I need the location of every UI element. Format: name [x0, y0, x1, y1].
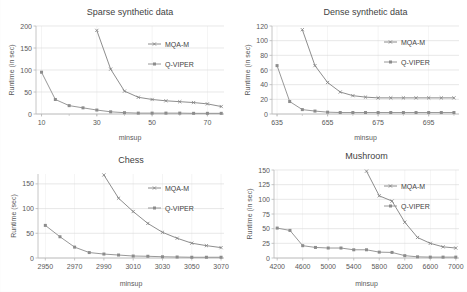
svg-text:25: 25	[262, 240, 270, 247]
svg-text:50: 50	[148, 119, 156, 126]
svg-text:655: 655	[322, 119, 334, 126]
svg-text:Runtime (in sec): Runtime (in sec)	[8, 45, 16, 96]
svg-text:125: 125	[258, 181, 270, 188]
svg-text:50: 50	[26, 230, 34, 237]
svg-text:Mushroom: Mushroom	[345, 151, 388, 161]
svg-text:120: 120	[256, 23, 268, 30]
svg-text:5000: 5000	[320, 263, 336, 270]
chart-svg-3: 0255075100125150420046005000540058006200…	[234, 146, 467, 292]
svg-text:Q-VIPER: Q-VIPER	[401, 59, 430, 67]
chart-svg-2: 0501001502950297029903010303030503070Che…	[0, 146, 234, 292]
svg-text:0: 0	[30, 255, 34, 262]
svg-text:200: 200	[20, 23, 32, 30]
svg-text:150: 150	[22, 180, 34, 187]
svg-text:2950: 2950	[38, 263, 54, 270]
svg-text:Q-VIPER: Q-VIPER	[401, 203, 430, 211]
svg-text:100: 100	[22, 205, 34, 212]
svg-text:Q-VIPER: Q-VIPER	[165, 205, 194, 213]
svg-text:0: 0	[28, 111, 32, 118]
chart-panel-mushroom: 0255075100125150420046005000540058006200…	[234, 146, 467, 292]
svg-text:4200: 4200	[269, 263, 285, 270]
svg-text:minsup: minsup	[354, 134, 377, 142]
svg-text:3030: 3030	[155, 263, 171, 270]
svg-text:Dense synthetic data: Dense synthetic data	[323, 7, 407, 17]
svg-text:MQA-M: MQA-M	[165, 185, 189, 193]
svg-text:Q-VIPER: Q-VIPER	[165, 61, 194, 69]
chart-panel-chess: 0501001502950297029903010303030503070Che…	[0, 146, 234, 292]
svg-text:minsup: minsup	[355, 280, 378, 288]
svg-text:60: 60	[260, 67, 268, 74]
chart-svg-0: 05010015020010305070Sparse synthetic dat…	[0, 0, 234, 146]
svg-text:7000: 7000	[448, 263, 464, 270]
svg-text:30: 30	[93, 119, 101, 126]
svg-text:50: 50	[24, 89, 32, 96]
svg-text:50: 50	[262, 225, 270, 232]
svg-text:635: 635	[271, 119, 283, 126]
svg-text:70: 70	[204, 119, 212, 126]
svg-text:100: 100	[256, 37, 268, 44]
svg-text:Runtime (in sec): Runtime (in sec)	[246, 189, 254, 240]
svg-text:100: 100	[258, 196, 270, 203]
svg-text:Chess: Chess	[118, 155, 144, 165]
svg-text:0: 0	[266, 255, 270, 262]
svg-text:0: 0	[264, 111, 268, 118]
svg-text:5800: 5800	[371, 263, 387, 270]
svg-text:20: 20	[260, 96, 268, 103]
svg-text:MQA-M: MQA-M	[401, 39, 425, 47]
svg-text:3050: 3050	[184, 263, 200, 270]
svg-text:40: 40	[260, 81, 268, 88]
svg-text:minsup: minsup	[120, 280, 143, 288]
svg-text:695: 695	[423, 119, 435, 126]
svg-text:4600: 4600	[295, 263, 311, 270]
svg-text:2990: 2990	[96, 263, 112, 270]
svg-text:Runtime (sec): Runtime (sec)	[10, 194, 18, 238]
svg-text:5400: 5400	[346, 263, 362, 270]
svg-text:minsup: minsup	[119, 134, 142, 142]
svg-text:2970: 2970	[67, 263, 83, 270]
svg-text:6200: 6200	[397, 263, 413, 270]
svg-text:6600: 6600	[423, 263, 439, 270]
svg-text:100: 100	[20, 67, 32, 74]
svg-text:10: 10	[38, 119, 46, 126]
svg-text:MQA-M: MQA-M	[165, 41, 189, 49]
chart-panel-dense-synthetic-data: 020406080100120635655675695Dense synthet…	[234, 0, 467, 146]
chart-panel-sparse-synthetic-data: 05010015020010305070Sparse synthetic dat…	[0, 0, 234, 146]
svg-text:150: 150	[20, 45, 32, 52]
svg-text:80: 80	[260, 52, 268, 59]
chart-figure-grid: 05010015020010305070Sparse synthetic dat…	[0, 0, 467, 292]
svg-text:75: 75	[262, 211, 270, 218]
svg-text:675: 675	[372, 119, 384, 126]
svg-text:150: 150	[258, 167, 270, 174]
svg-text:3070: 3070	[213, 263, 229, 270]
chart-svg-1: 020406080100120635655675695Dense synthet…	[234, 0, 467, 146]
svg-text:3010: 3010	[125, 263, 141, 270]
svg-text:Sparse synthetic data: Sparse synthetic data	[87, 7, 174, 17]
svg-text:MQA-M: MQA-M	[401, 183, 425, 191]
svg-text:Runtime (in sec): Runtime (in sec)	[244, 45, 252, 96]
